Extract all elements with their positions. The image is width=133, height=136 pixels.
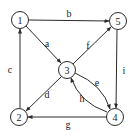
edge-label-i: i bbox=[123, 65, 126, 76]
edge-label-e: e bbox=[95, 77, 100, 88]
edge-label-g: g bbox=[66, 119, 71, 130]
node-label-3: 3 bbox=[65, 65, 70, 76]
node-label-2: 2 bbox=[17, 112, 22, 123]
edge-label-a: a bbox=[45, 38, 50, 49]
node-1: 1 bbox=[12, 12, 29, 29]
edge-e bbox=[75, 73, 110, 109]
node-label-4: 4 bbox=[113, 112, 118, 123]
edge-b bbox=[29, 20, 109, 21]
edge-i bbox=[116, 30, 117, 108]
edge-label-d: d bbox=[45, 89, 50, 100]
edge-h bbox=[71, 78, 107, 112]
edge-label-c: c bbox=[8, 64, 13, 75]
edge-d bbox=[26, 77, 61, 111]
edge-label-h: h bbox=[80, 93, 85, 104]
node-label-5: 5 bbox=[116, 16, 121, 27]
node-3: 3 bbox=[59, 62, 76, 79]
node-4: 4 bbox=[107, 109, 124, 126]
directed-graph: a b c d e f g h i 1 5 3 2 4 bbox=[0, 0, 133, 136]
edge-a bbox=[26, 26, 61, 63]
node-5: 5 bbox=[110, 13, 127, 30]
edge-f bbox=[73, 27, 111, 64]
edge-label-b: b bbox=[67, 8, 72, 19]
edge-label-f: f bbox=[86, 40, 90, 51]
node-label-1: 1 bbox=[18, 15, 23, 26]
node-2: 2 bbox=[11, 109, 28, 126]
